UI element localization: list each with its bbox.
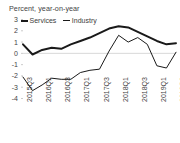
chart-container: Percent, year-on-year Services Industry … — [0, 0, 180, 143]
series-line-industry — [23, 35, 176, 90]
plot-area — [0, 0, 180, 143]
series-line-services — [23, 26, 176, 54]
